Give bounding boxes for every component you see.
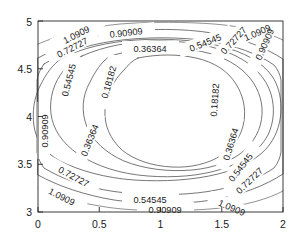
y-tick-label: 4.5 bbox=[17, 63, 32, 75]
y-tick-label: 3 bbox=[26, 206, 32, 218]
y-tick-label: 4 bbox=[26, 111, 32, 123]
y-axis-tick-labels: 3 3.5 4 4.5 5 bbox=[17, 16, 32, 219]
x-tick-label: 2 bbox=[280, 218, 286, 230]
x-tick-label: 0.5 bbox=[92, 218, 107, 230]
contour-label: 0.90909 bbox=[148, 205, 181, 215]
contour-label: 0.36364 bbox=[133, 44, 166, 54]
contour-plot-svg: 1.0909 0.90909 0.72727 0.36364 0.54545 0… bbox=[0, 0, 298, 245]
x-tick-label: 0 bbox=[35, 218, 41, 230]
x-tick-label: 1.5 bbox=[214, 218, 229, 230]
contour-label: 0.54545 bbox=[133, 195, 166, 205]
contour-figure: 1.0909 0.90909 0.72727 0.36364 0.54545 0… bbox=[0, 0, 298, 245]
x-tick-label: 1 bbox=[158, 218, 164, 230]
contour-label: 0.90909 bbox=[40, 114, 50, 147]
y-tick-label: 5 bbox=[26, 16, 32, 28]
y-tick-label: 3.5 bbox=[17, 158, 32, 170]
